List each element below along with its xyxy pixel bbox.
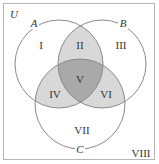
set-b-label: B — [120, 17, 127, 29]
region-viii-label: VIII — [132, 147, 151, 159]
venn-diagram: U A B C I II III V IV VI VII VIII — [0, 0, 159, 164]
region-ii-label: II — [76, 39, 84, 51]
set-a-label: A — [30, 17, 38, 29]
universe-label: U — [10, 8, 19, 20]
region-vi-label: VI — [100, 88, 112, 100]
region-v-label: V — [76, 73, 84, 85]
set-c-label: C — [76, 143, 84, 155]
region-i-label: I — [39, 39, 43, 51]
region-iii-label: III — [116, 39, 127, 51]
region-vii-label: VII — [74, 124, 90, 136]
region-iv-label: IV — [49, 88, 61, 100]
